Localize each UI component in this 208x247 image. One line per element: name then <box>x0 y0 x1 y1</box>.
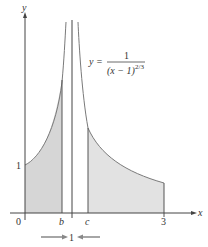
function-denominator: (x − 1) <box>107 65 136 77</box>
y-tick-1: 1 <box>16 160 21 171</box>
shaded-region-right <box>88 128 164 213</box>
graph: y x 0 b c 3 1 1 y = 1 (x − 1) 2/3 <box>0 0 208 247</box>
x-axis-arrow-icon <box>191 211 197 215</box>
function-numerator: 1 <box>124 50 129 61</box>
function-lhs: y = <box>88 56 103 67</box>
function-exponent: 2/3 <box>135 63 144 71</box>
arrow-right-icon <box>62 235 68 240</box>
x-tick-c: c <box>85 216 90 227</box>
x-axis-label: x <box>197 207 203 218</box>
x-tick-3: 3 <box>161 216 166 227</box>
y-axis-label: y <box>21 2 27 13</box>
x-tick-0: 0 <box>16 216 21 227</box>
shaded-region-left <box>25 80 62 213</box>
x-tick-b: b <box>59 216 64 227</box>
asymptote-label: 1 <box>69 232 74 243</box>
